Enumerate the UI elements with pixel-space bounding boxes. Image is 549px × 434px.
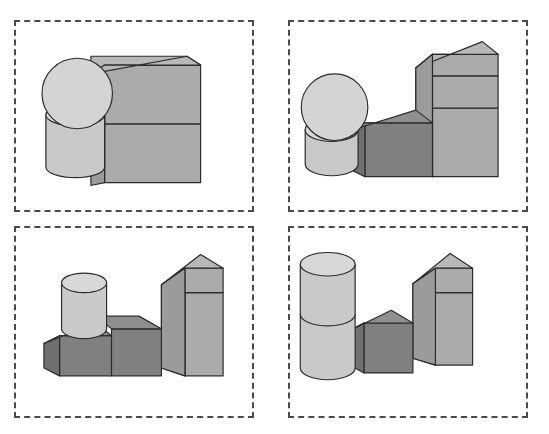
box-tall-front-upper: [435, 268, 472, 292]
cylinder-body: [46, 115, 105, 178]
box-lower-side: [91, 124, 105, 186]
sphere: [301, 74, 368, 141]
box-tall-side: [416, 54, 433, 176]
panel-bottom-left[interactable]: [14, 226, 254, 418]
box-tall-front-upper: [432, 54, 498, 76]
box-tall-upper-front: [432, 76, 498, 108]
box-tall-top: [161, 254, 223, 284]
panel-top-right-scene: [290, 22, 526, 210]
cube-dark-top: [349, 110, 432, 131]
cylinder-body: [305, 130, 358, 176]
cube-dark-side: [349, 123, 365, 177]
cylinder-top: [62, 273, 107, 293]
box-tall-left-col: [416, 54, 433, 176]
box-tall-side: [413, 268, 436, 365]
box-tall-top: [413, 253, 473, 283]
box-tall-top: [416, 42, 498, 68]
cube-dark-left-top: [44, 323, 112, 344]
box-tall-lower-front: [185, 293, 223, 376]
panel-bottom-right[interactable]: [288, 226, 528, 418]
box-tall-left-col: [413, 268, 436, 365]
panel-bottom-right-scene: [290, 228, 526, 416]
cube-dark-middle-front: [111, 329, 161, 376]
panel-top-left-scene: [16, 22, 252, 210]
box-tall-left-col: [161, 268, 185, 376]
box-tall-lower-front: [435, 293, 472, 365]
panel-top-right[interactable]: [288, 20, 528, 212]
box-tall-side: [161, 268, 185, 376]
panel-bottom-left-scene: [16, 228, 252, 416]
cube-dark-side: [351, 323, 364, 373]
box-tall-lower-front: [432, 108, 498, 177]
box-upper-side: [91, 65, 105, 133]
cylinder-upper-top: [300, 252, 355, 275]
cylinder-body: [62, 283, 107, 339]
box-upper-top: [91, 56, 201, 74]
scene-canvas: [0, 0, 549, 434]
box-lower-front: [105, 124, 201, 183]
cube-dark-top: [351, 310, 413, 330]
cube-dark-front: [365, 123, 433, 177]
sphere: [42, 58, 113, 128]
cube-dark-left-side: [44, 336, 60, 376]
cylinder-top: [305, 118, 358, 142]
box-upper-top-face: [91, 56, 201, 74]
box-upper-front: [105, 65, 201, 124]
cylinder-top: [46, 104, 105, 126]
cylinder-lower-body: [300, 314, 355, 380]
box-tall-front-upper: [185, 268, 223, 292]
cube-dark-middle-top: [96, 316, 162, 329]
cube-dark-front: [364, 323, 413, 373]
panel-top-left[interactable]: [14, 20, 254, 212]
cube-dark-left-front: [60, 336, 112, 376]
cylinder-upper-body: [300, 264, 355, 326]
